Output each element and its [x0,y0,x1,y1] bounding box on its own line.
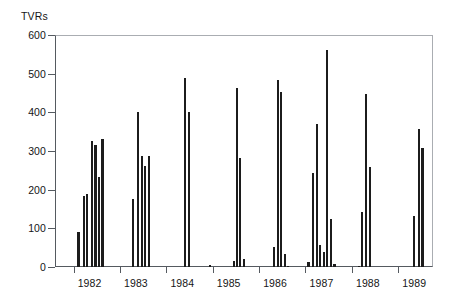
y-axis-tick-label: 400 [2,106,46,118]
bar [132,199,134,267]
x-axis-tick [352,267,353,273]
y-axis-title: TVRs [21,10,48,22]
x-axis-tick [305,267,306,273]
y-axis-tick-label: 600 [2,29,46,41]
bar [98,177,100,267]
bar [333,264,335,267]
x-axis-tick [213,267,214,273]
x-axis-tick [74,267,75,273]
bars-layer [55,35,433,267]
bar [239,158,241,267]
bar [413,216,415,267]
tvrs-bar-chart: TVRs 01002003004005006001982198319841985… [0,0,450,302]
y-axis-tick [48,74,55,75]
x-axis-tick-label: 1989 [402,277,426,289]
y-axis-tick-label: 200 [2,184,46,196]
y-axis-tick [48,151,55,152]
x-axis-tick-label: 1982 [78,277,102,289]
x-axis-tick-label: 1988 [356,277,380,289]
bar [141,156,143,267]
bar [137,112,139,267]
bar [307,262,309,267]
bar [209,265,211,267]
x-axis-tick [166,267,167,273]
bar [316,124,318,267]
y-axis-tick [48,190,55,191]
bar [243,259,245,267]
bar [312,173,314,267]
bar [421,148,423,267]
y-axis-tick [48,228,55,229]
bar [94,145,96,267]
bar [101,139,103,267]
x-axis-tick-label: 1985 [217,277,241,289]
y-axis-tick-label: 100 [2,222,46,234]
x-axis-tick-label: 1984 [170,277,194,289]
bar [273,247,275,267]
y-axis-tick-label: 300 [2,145,46,157]
bar [77,232,79,267]
bar [369,167,371,267]
y-axis-tick-label: 0 [2,261,46,273]
bar [91,141,93,267]
bar [83,196,85,267]
bar [280,92,282,267]
bar [148,156,150,267]
bar [418,129,420,267]
bar [365,94,367,267]
bar [330,219,332,267]
x-axis-tick-label: 1987 [310,277,334,289]
x-axis-tick [120,267,121,273]
bar [319,245,321,267]
bar [184,78,186,267]
y-axis-tick [48,267,55,268]
bar [287,266,289,267]
x-axis-tick-label: 1986 [263,277,287,289]
y-axis-tick [48,112,55,113]
x-axis-tick-label: 1983 [124,277,148,289]
bar [284,254,286,267]
bar [236,88,238,267]
bar [361,212,363,267]
x-axis-tick [259,267,260,273]
x-axis-tick [398,267,399,273]
bar [358,266,360,267]
bar [144,166,146,267]
y-axis-tick [48,35,55,36]
bar [188,112,190,267]
bar [326,50,328,267]
y-axis-tick-label: 500 [2,68,46,80]
bar [86,194,88,267]
